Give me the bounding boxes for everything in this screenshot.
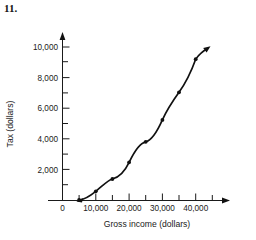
x-axis-tick-labels: 0 10,000 20,000 30,000 40,000: [60, 204, 208, 213]
y-axis-major-ticks: [63, 47, 70, 169]
y-axis-title: Tax (dollars): [5, 100, 15, 147]
x-axis-arrow-icon: [222, 198, 230, 204]
x-tick-label: 10,000: [83, 204, 108, 213]
x-axis-minor-ticks: [79, 195, 212, 201]
tax-curve: [79, 49, 207, 201]
data-point: [194, 57, 198, 61]
y-axis-minor-ticks: [63, 62, 69, 185]
y-tick-label: 2,000: [38, 166, 59, 175]
x-tick-label: 30,000: [150, 204, 175, 213]
x-tick-label: 0: [60, 204, 65, 213]
figure-root: 11. 10,000 8,000 6,000 4,00: [0, 0, 256, 240]
data-point: [77, 198, 81, 202]
data-point: [127, 160, 131, 164]
x-axis-title: Gross income (dollars): [104, 219, 191, 229]
y-axis-arrow-icon: [60, 32, 66, 40]
y-axis-tick-labels: 10,000 8,000 6,000 4,000 2,000: [33, 43, 58, 174]
y-tick-label: 8,000: [38, 74, 59, 83]
data-point-markers: [77, 57, 197, 202]
data-point: [144, 140, 148, 144]
data-point: [111, 177, 115, 181]
y-tick-label: 6,000: [38, 104, 59, 113]
y-tick-label: 4,000: [38, 135, 59, 144]
data-point: [177, 90, 181, 94]
y-tick-label: 10,000: [33, 43, 58, 52]
tax-vs-income-chart: 10,000 8,000 6,000 4,000 2,000 0 10,000 …: [0, 0, 256, 240]
x-tick-label: 40,000: [183, 204, 208, 213]
data-point: [94, 189, 98, 193]
x-tick-label: 20,000: [117, 204, 142, 213]
data-point: [161, 118, 165, 122]
